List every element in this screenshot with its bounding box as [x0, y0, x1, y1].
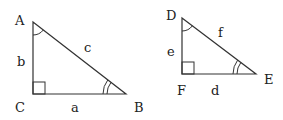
vertex-label-a: A [14, 13, 25, 28]
triangle-abc-edges [33, 22, 126, 94]
vertex-label-b: B [134, 100, 144, 115]
angle-arc-b-inner [107, 82, 111, 94]
vertex-label-d: D [166, 8, 176, 23]
angle-arc-e-inner [237, 63, 241, 74]
angle-arc-d [182, 26, 192, 31]
triangle-def: D F E e d f [166, 8, 274, 98]
side-label-a: a [71, 100, 79, 115]
vertex-label-c: C [15, 100, 25, 115]
vertex-label-e: E [264, 72, 274, 87]
angle-arc-a [33, 30, 43, 35]
side-label-f: f [218, 25, 224, 40]
similar-triangles-diagram: A C B b a c D F E e d f [0, 0, 283, 120]
triangle-abc: A C B b a c [14, 13, 144, 115]
side-label-c: c [84, 40, 91, 55]
side-label-d: d [211, 83, 219, 98]
right-angle-marker-c [33, 82, 45, 94]
right-angle-marker-f [182, 62, 194, 74]
vertex-label-f: F [177, 83, 186, 98]
side-label-b: b [17, 54, 25, 69]
side-label-e: e [167, 44, 175, 59]
